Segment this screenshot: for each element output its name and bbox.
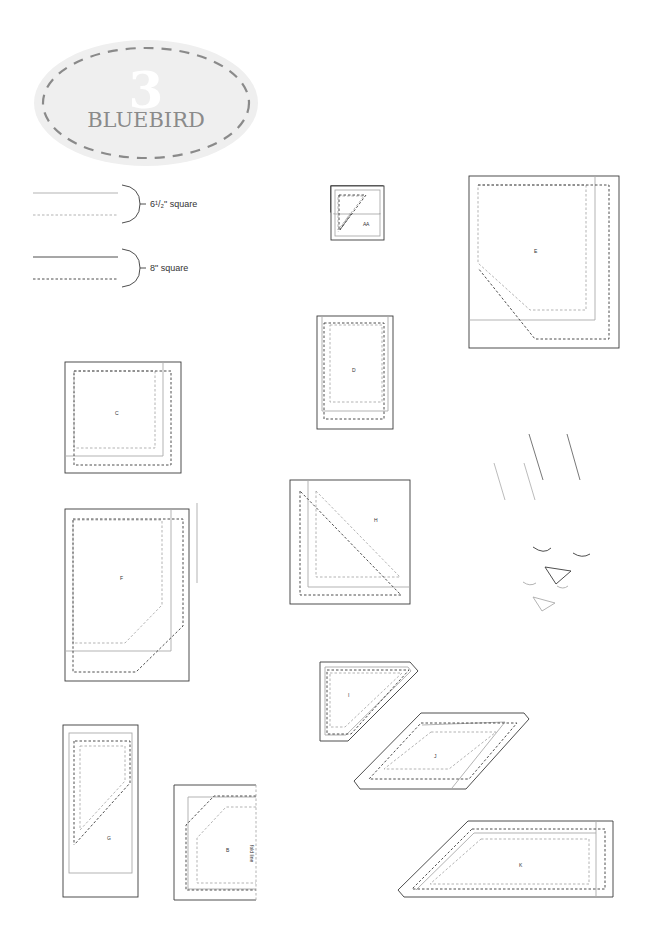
page-title: BLUEBIRD: [87, 108, 205, 132]
piece-d: D: [317, 316, 393, 429]
bird-accents: [494, 434, 590, 611]
piece-label: B: [226, 847, 230, 853]
piece-j: J: [354, 713, 529, 789]
piece-label: J: [434, 753, 437, 759]
title-badge: 3 BLUEBIRD: [34, 40, 258, 166]
bird-eye-icon: [533, 547, 551, 551]
bird-beak-icon: [545, 567, 571, 584]
legend-brace-2: [122, 249, 140, 287]
pattern-sheet: .d { fill: none; stroke: #3a3a3a; stroke…: [0, 0, 648, 951]
piece-h: H: [290, 480, 410, 604]
piece-label: K: [519, 862, 523, 868]
legend-label-small: 6¹/₂" square: [150, 199, 197, 209]
piece-label: D: [352, 367, 356, 373]
piece-i: I: [320, 662, 418, 741]
bird-eye-icon: [573, 553, 590, 556]
piece-label: F: [120, 575, 123, 581]
legend-label-large: 8" square: [150, 263, 188, 273]
piece-label: I: [348, 692, 349, 698]
piece-b: B fold line: [174, 785, 256, 900]
piece-c: C: [65, 362, 181, 473]
fold-line-label: fold line: [249, 845, 255, 862]
piece-label: E: [534, 248, 538, 254]
legend-brace-1: [122, 185, 140, 223]
piece-label: C: [115, 410, 119, 416]
bird-beak-icon: [533, 597, 555, 611]
piece-label: G: [107, 835, 111, 841]
piece-e: E: [469, 176, 619, 348]
piece-label: A: [366, 221, 370, 227]
piece-label: H: [374, 517, 378, 523]
piece-k: K: [398, 821, 613, 897]
piece-g: G: [63, 725, 138, 897]
piece-f: F: [65, 503, 197, 681]
legend: 6¹/₂" square 8" square: [33, 185, 197, 287]
